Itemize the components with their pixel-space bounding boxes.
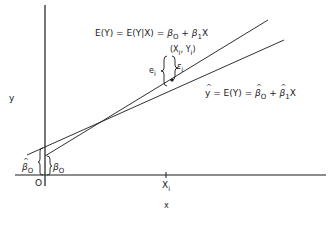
residual-label: ei (149, 66, 156, 76)
true-line-equation: E(Y) = E(Y|X) = βO + β1X (95, 28, 208, 39)
estimated-intercept-label: βO (22, 162, 33, 173)
true-intercept-label: βO (53, 162, 64, 173)
fitted-line-equation: y = E(Y) = βO + β1X (205, 88, 296, 99)
estimated-intercept-brace (38, 148, 43, 175)
true-intercept-brace (47, 156, 52, 175)
y-axis-label: y (9, 93, 14, 103)
residual-brace (161, 56, 167, 86)
origin-label: O (35, 178, 42, 188)
x-tick-label: Xi (162, 180, 170, 191)
observed-point-label: (Xi, Yi) (170, 45, 196, 55)
x-axis-label: x (164, 201, 169, 211)
error-term-label: εi (177, 62, 183, 72)
